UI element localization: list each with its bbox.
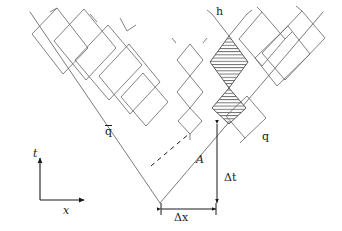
label-delta-x: Δx — [174, 212, 188, 223]
left-whisker-4 — [120, 18, 127, 31]
label-h: h — [216, 6, 223, 17]
hatched-blob-lower — [212, 88, 246, 124]
right-whisker-4 — [240, 138, 245, 143]
h-whisker-left — [207, 10, 212, 14]
label-q: q — [262, 131, 269, 142]
center-whisker-top-right — [203, 38, 207, 43]
qbar-overline-glyph: q — [105, 126, 112, 137]
center-diamond-chain — [172, 38, 207, 140]
left-emission-structures — [32, 8, 168, 126]
center-diamond-1 — [177, 44, 203, 76]
left-box-1 — [32, 8, 88, 74]
center-diamond-2 — [177, 76, 203, 108]
left-whisker-3 — [127, 25, 136, 31]
right-whisker-3 — [296, 6, 302, 11]
spacetime-diagram-svg — [0, 0, 342, 231]
left-box-4 — [99, 44, 160, 114]
left-box-5 — [121, 73, 168, 126]
lightcone-left-arm — [30, 12, 160, 203]
dashed-internal-line — [151, 133, 190, 166]
right-whisker-2 — [285, 32, 292, 39]
label-axis-t: t — [33, 148, 37, 159]
left-box-3 — [75, 25, 142, 100]
coordinate-axes — [40, 158, 84, 200]
figure-container: h q q A Δt Δx t x — [0, 0, 342, 231]
label-amplitude: A — [196, 154, 204, 165]
lightcone-main — [30, 12, 323, 203]
label-qbar: q — [105, 126, 112, 137]
right-whisker-1 — [257, 7, 262, 12]
h-whisker-right — [247, 10, 252, 14]
right-box-1 — [239, 12, 285, 66]
hatched-blob-upper — [210, 36, 248, 88]
hatched-blob-group — [207, 10, 252, 124]
label-axis-x: x — [63, 205, 69, 216]
center-whisker-top-left — [172, 38, 176, 43]
label-delta-t: Δt — [224, 172, 236, 183]
center-diamond-3 — [178, 108, 202, 134]
